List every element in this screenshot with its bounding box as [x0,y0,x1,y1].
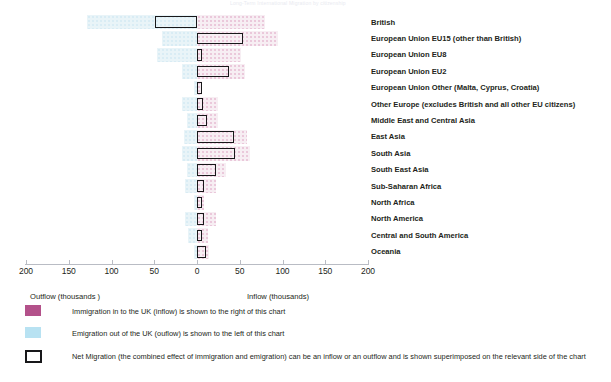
x-axis-tick [197,260,198,264]
outflow-bar [185,212,197,226]
x-axis-tick-label: 100 [263,266,303,276]
inflow-bar [197,48,241,62]
net-migration-bar [197,33,243,45]
category-label: European Union EU8 [371,50,447,60]
net-migration-bar [197,246,206,258]
category-label: Central and South America [371,231,468,241]
category-label: Oceania [371,247,401,257]
net-migration-bar [155,16,197,28]
bar-row [0,162,380,178]
chart-title-faint: Long-Term International Migration by cit… [230,0,400,8]
bar-row [0,145,380,161]
category-label: Middle East and Central Asia [371,116,475,126]
bar-row [0,244,380,260]
category-label: British [371,18,395,28]
outflow-bar [188,228,197,242]
legend-label-outflow: Emigration out of the UK (ouflow) is sho… [72,328,284,339]
x-axis-tick [283,260,284,264]
net-migration-bar [197,98,203,110]
x-axis-tick [69,260,70,264]
bar-row [0,96,380,112]
bar-row [0,30,380,46]
bar-row [0,211,380,227]
bar-rows [0,14,380,264]
outflow-bar [182,97,197,111]
inflow-bar [197,15,265,29]
x-axis-tick-label: 150 [49,266,89,276]
category-label: Sub-Saharan Africa [371,182,441,192]
pink-swatch [25,305,41,316]
inflow-axis-header: Inflow (thousands) [247,292,309,301]
blue-swatch [25,327,41,338]
x-axis-tick [368,260,369,264]
x-axis-tick-label: 200 [6,266,46,276]
net-migration-bar [197,164,216,176]
x-axis-tick-label: 150 [305,266,345,276]
x-axis-line [25,264,369,265]
net-migration-bar [197,66,229,78]
category-labels: BritishEuropean Union EU15 (other than B… [371,14,611,264]
outflow-bar [162,31,197,45]
category-label: European Union Other (Malta, Cyprus, Cro… [371,83,539,93]
bar-row [0,112,380,128]
bar-row [0,227,380,243]
x-axis-tick [154,260,155,264]
plot-area [0,14,380,264]
category-label: North Africa [371,198,415,208]
bar-row [0,178,380,194]
x-axis-tick [112,260,113,264]
outflow-bar [185,179,197,193]
net-migration-bar [197,49,202,61]
migration-chart-page: Long-Term International Migration by cit… [0,0,611,382]
outflow-bar [187,163,197,177]
category-label: Other Europe (excludes British and all o… [371,100,575,110]
x-axis-tick-label: 200 [348,266,388,276]
category-label: European Union EU2 [371,67,447,77]
bar-row [0,47,380,63]
bar-row [0,194,380,210]
net-migration-bar [197,115,207,127]
category-label: European Union EU15 (other than British) [371,34,521,44]
outflow-bar [187,113,197,127]
legend-label-inflow: Immigration in to the UK (inflow) is sho… [72,306,285,317]
outflow-axis-header: Outflow (thousands ) [30,292,100,301]
outflow-bar [157,48,197,62]
bar-row [0,80,380,96]
x-axis-tick [325,260,326,264]
net-migration-bar [197,230,202,242]
outflow-bar [182,64,197,78]
bar-row [0,129,380,145]
x-axis-tick-label: 50 [134,266,174,276]
category-label: North America [371,214,423,224]
x-axis-tick [240,260,241,264]
x-axis-tick-label: 100 [92,266,132,276]
outflow-bar [182,146,197,160]
outline-swatch [25,350,42,363]
category-label: South Asia [371,149,410,159]
net-migration-bar [197,82,202,94]
x-axis-tick-label: 0 [177,266,217,276]
net-migration-bar [197,197,202,209]
net-migration-bar [197,180,204,192]
x-axis-tick-label: 50 [220,266,260,276]
net-migration-bar [197,131,234,143]
bar-row [0,63,380,79]
net-migration-bar [197,148,235,160]
category-label: East Asia [371,132,405,142]
category-label: South East Asia [371,165,429,175]
x-axis-tick [26,260,27,264]
net-migration-bar [197,213,204,225]
bar-row [0,14,380,30]
legend-label-net: Net Migration (the combined effect of im… [72,351,611,362]
outflow-bar [184,130,197,144]
